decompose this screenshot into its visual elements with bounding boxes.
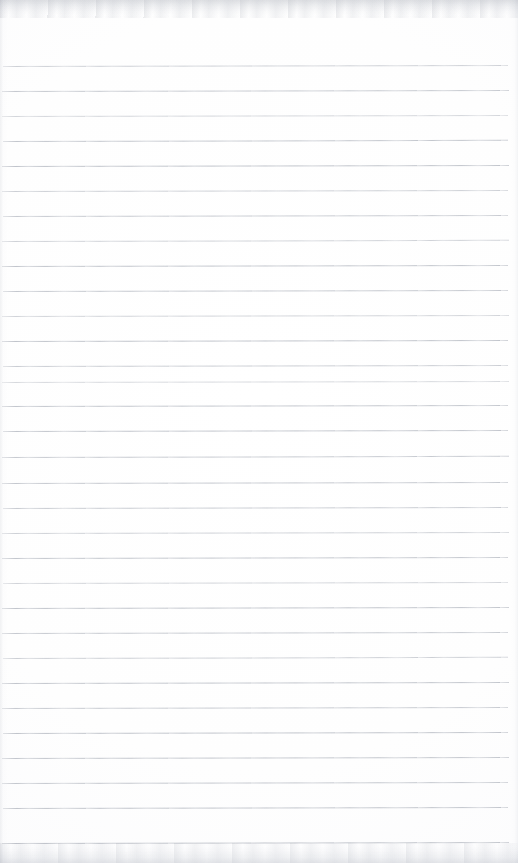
rule-line bbox=[2, 632, 508, 634]
ruled-lines-group bbox=[0, 0, 518, 863]
rule-line bbox=[3, 807, 508, 809]
scan-artifact-top-band bbox=[0, 0, 518, 18]
rule-line bbox=[3, 657, 508, 659]
scan-artifact-bottom-band bbox=[0, 843, 518, 863]
rule-line bbox=[3, 732, 508, 734]
scanned-page bbox=[0, 0, 518, 863]
rule-line bbox=[3, 365, 508, 367]
rule-line bbox=[2, 265, 508, 267]
rule-line bbox=[2, 315, 509, 317]
rule-line bbox=[2, 757, 509, 759]
rule-line bbox=[2, 190, 508, 192]
rule-line bbox=[2, 707, 508, 709]
rule-line bbox=[2, 90, 509, 92]
rule-line bbox=[2, 456, 509, 458]
rule-line bbox=[3, 65, 508, 67]
rule-line bbox=[3, 582, 508, 584]
rule-line bbox=[2, 340, 508, 342]
rule-line bbox=[2, 405, 508, 407]
rule-line bbox=[2, 482, 508, 484]
rule-line bbox=[2, 782, 508, 784]
scan-artifact-left-vignette bbox=[0, 0, 7, 863]
rule-line bbox=[3, 430, 508, 432]
rule-line bbox=[3, 215, 508, 217]
rule-line bbox=[2, 381, 509, 383]
rule-line bbox=[2, 557, 508, 559]
rule-line bbox=[3, 290, 508, 292]
rule-line bbox=[2, 115, 508, 117]
scan-artifact-right-vignette bbox=[511, 0, 518, 863]
rule-line bbox=[3, 140, 508, 142]
rule-line bbox=[2, 607, 509, 609]
rule-line bbox=[2, 165, 509, 167]
rule-line bbox=[2, 240, 509, 242]
rule-line bbox=[2, 682, 509, 684]
rule-line bbox=[3, 507, 508, 509]
rule-line bbox=[2, 532, 509, 534]
